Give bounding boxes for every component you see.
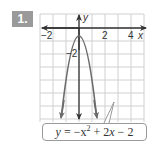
x-tick-label-neg2: −2 — [41, 30, 53, 41]
x-tick-label-2: 2 — [102, 30, 108, 41]
y-tick-label-neg2: −2 — [66, 48, 78, 59]
x-tick-label-4: 4 — [128, 30, 134, 41]
y-axis-label: y — [82, 12, 89, 23]
equation-label: y = −x2 + 2x − 2 — [42, 123, 147, 141]
x-axis-label: x — [137, 30, 144, 41]
equation-equals: = — [61, 125, 74, 139]
equation-minus: − 2 — [115, 125, 134, 139]
equation-plus: + 2 — [91, 125, 110, 139]
equation-neg-x: −x — [74, 125, 87, 139]
